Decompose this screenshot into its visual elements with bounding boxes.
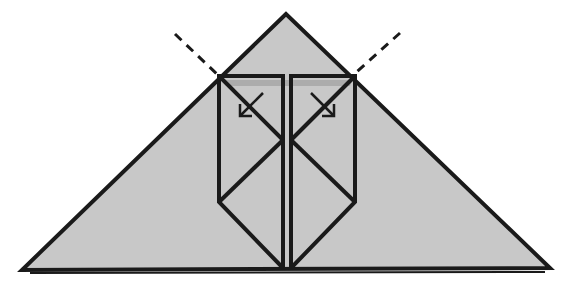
flap-shadow xyxy=(222,80,352,86)
dashed-guide-left xyxy=(175,34,219,76)
triangle-base xyxy=(22,14,550,270)
dashed-guide-right xyxy=(352,33,400,76)
origami-diagram xyxy=(0,0,570,301)
bottom-edge-layer xyxy=(30,272,545,273)
